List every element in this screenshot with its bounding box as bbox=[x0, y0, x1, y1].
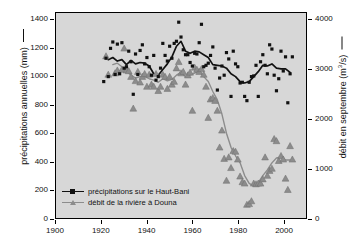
precipitation-data-point bbox=[264, 64, 267, 67]
precipitation-data-point bbox=[266, 72, 269, 75]
discharge-data-point bbox=[219, 127, 226, 133]
discharge-data-point bbox=[262, 154, 269, 160]
precipitation-data-point bbox=[214, 67, 217, 70]
legend-label-precipitation: précipitations sur le Haut-Bani bbox=[88, 187, 189, 196]
precipitation-data-point bbox=[177, 21, 180, 24]
y-axis-left-tick bbox=[50, 105, 54, 106]
precipitation-data-point bbox=[118, 72, 121, 75]
precipitation-data-point bbox=[166, 59, 169, 62]
y-axis-left-tick-label: 1000 bbox=[17, 72, 48, 80]
x-axis-tick bbox=[101, 220, 102, 224]
discharge-data-point bbox=[205, 114, 212, 120]
x-axis-tick bbox=[238, 220, 239, 224]
x-axis-tick-label: 1920 bbox=[83, 227, 119, 235]
precipitation-data-point bbox=[286, 101, 289, 104]
x-axis-tick bbox=[147, 220, 148, 224]
y-axis-left-tick-label: 600 bbox=[17, 129, 48, 137]
y-axis-right-tick-label: 1000 bbox=[315, 165, 347, 173]
precipitation-data-point bbox=[245, 99, 248, 102]
x-axis-tick bbox=[284, 220, 285, 224]
discharge-data-point bbox=[203, 83, 210, 89]
precipitation-data-point bbox=[241, 81, 244, 84]
precipitation-data-point bbox=[148, 65, 151, 68]
precipitation-data-point bbox=[125, 65, 128, 68]
precipitation-data-point bbox=[234, 62, 237, 65]
precipitation-data-point bbox=[109, 47, 112, 50]
y-axis-right-title: débit en septembre (m3/s) bbox=[337, 28, 348, 168]
precipitation-data-point bbox=[223, 74, 226, 77]
legend-item-discharge: débit de la rivière à Douna bbox=[62, 197, 189, 208]
y-axis-right-tick bbox=[308, 19, 312, 20]
precipitation-data-point bbox=[127, 50, 130, 53]
legend-label-discharge: débit de la rivière à Douna bbox=[88, 198, 177, 207]
y-axis-left-tick bbox=[50, 219, 54, 220]
precipitation-data-point bbox=[198, 41, 201, 44]
precipitation-data-point bbox=[114, 73, 117, 76]
precipitation-data-point bbox=[175, 40, 178, 43]
discharge-data-point bbox=[223, 177, 230, 183]
legend-key-precipitation bbox=[62, 187, 84, 197]
precipitation-trend-line bbox=[108, 41, 290, 83]
discharge-data-point bbox=[166, 73, 173, 79]
precipitation-data-point bbox=[159, 67, 162, 70]
precipitation-data-point bbox=[145, 56, 148, 59]
discharge-data-point bbox=[121, 45, 128, 51]
discharge-data-point bbox=[182, 81, 189, 87]
y-axis-left-tick-label: 0 bbox=[17, 215, 48, 223]
chart-figure: précipitations annuelles (mm) débit en s… bbox=[0, 0, 364, 246]
y-axis-left-tick-label: 400 bbox=[17, 158, 48, 166]
precipitation-data-point bbox=[182, 48, 185, 51]
precipitation-data-point bbox=[134, 52, 137, 55]
precipitation-data-point bbox=[154, 79, 157, 82]
legend-square-marker-icon bbox=[70, 189, 75, 194]
precipitation-data-point bbox=[232, 50, 235, 53]
discharge-data-point bbox=[173, 65, 180, 71]
precipitation-data-point bbox=[243, 95, 246, 98]
precipitation-data-point bbox=[152, 54, 155, 57]
precipitation-data-point bbox=[132, 93, 135, 96]
y-axis-right-tick-label: 0 bbox=[315, 215, 347, 223]
precipitation-data-point bbox=[120, 41, 123, 44]
y-axis-right-tick-label: 4000 bbox=[315, 15, 347, 23]
precipitation-data-point bbox=[282, 69, 285, 72]
discharge-data-point bbox=[228, 164, 235, 170]
y-axis-right-tick bbox=[308, 119, 312, 120]
discharge-data-point bbox=[237, 173, 244, 179]
y-axis-right-tick-label: 3000 bbox=[315, 65, 347, 73]
precipitation-line-swatch-icon bbox=[23, 29, 24, 42]
precipitation-data-point bbox=[211, 45, 214, 48]
y-axis-left-tick bbox=[50, 19, 54, 20]
discharge-line-swatch-icon bbox=[342, 37, 343, 50]
y-axis-left-tick bbox=[50, 190, 54, 191]
precipitation-data-point bbox=[164, 54, 167, 57]
x-axis-tick-label: 1940 bbox=[129, 227, 165, 235]
precipitation-data-point bbox=[207, 62, 210, 65]
precipitation-data-point bbox=[136, 73, 139, 76]
precipitation-data-point bbox=[102, 80, 105, 83]
precipitation-data-point bbox=[216, 88, 219, 91]
x-axis-tick-label: 1900 bbox=[37, 227, 73, 235]
precipitation-data-point bbox=[289, 72, 292, 75]
precipitation-data-point bbox=[273, 74, 276, 77]
discharge-data-point bbox=[157, 83, 164, 89]
x-axis-tick bbox=[192, 220, 193, 224]
y-axis-left-tick bbox=[50, 76, 54, 77]
y-axis-right-tick bbox=[308, 69, 312, 70]
precipitation-data-point bbox=[189, 61, 192, 64]
precipitation-data-point bbox=[275, 89, 278, 92]
discharge-data-point bbox=[130, 105, 137, 111]
discharge-data-point bbox=[282, 175, 289, 181]
y-axis-left-tick-label: 200 bbox=[17, 186, 48, 194]
precipitation-data-point bbox=[186, 53, 189, 56]
chart-legend: précipitations sur le Haut-Bani débit de… bbox=[62, 186, 189, 208]
discharge-data-point bbox=[289, 156, 296, 162]
discharge-data-point bbox=[216, 144, 223, 150]
y-axis-left-tick-label: 1400 bbox=[17, 15, 48, 23]
precipitation-data-point bbox=[111, 40, 114, 43]
y-axis-left-tick bbox=[50, 162, 54, 163]
precipitation-data-point bbox=[248, 81, 251, 84]
precipitation-data-point bbox=[179, 35, 182, 38]
discharge-data-point bbox=[287, 143, 294, 149]
precipitation-data-point bbox=[261, 53, 264, 56]
discharge-data-point bbox=[175, 58, 182, 64]
